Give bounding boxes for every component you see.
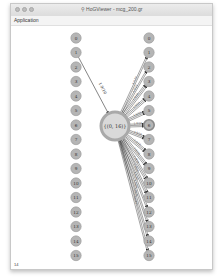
right-node-8[interactable]: 8: [144, 149, 154, 159]
right-node-1[interactable]: 1: [144, 47, 154, 57]
right-node-12[interactable]: 12: [144, 207, 154, 217]
left-node-6[interactable]: 6: [71, 120, 81, 130]
outgoing-edge[interactable]: [120, 139, 146, 193]
edge-label: 1.0/10: [133, 196, 138, 205]
node-label: 15: [146, 253, 152, 258]
node-label: 11: [146, 195, 152, 200]
edges: 1.9/101.0/101.0/101.0/101.0/101.0/101.0/…: [78, 57, 148, 251]
node-label: 12: [73, 210, 79, 215]
node-label: 7: [75, 137, 78, 142]
menubar: Application: [11, 16, 212, 26]
left-node-9[interactable]: 9: [71, 163, 81, 173]
right-node-10[interactable]: 10: [144, 178, 154, 188]
status-text: 14: [14, 262, 18, 267]
node-label: 13: [146, 224, 152, 229]
right-node-7[interactable]: 7: [144, 134, 154, 144]
left-node-12[interactable]: 12: [71, 207, 81, 217]
node-label: 9: [75, 166, 78, 171]
node-label: 4: [75, 94, 78, 99]
right-node-5[interactable]: 5: [144, 105, 154, 115]
right-node-13[interactable]: 13: [144, 221, 154, 231]
node-label: 12: [146, 210, 152, 215]
node-label: 1: [75, 50, 78, 55]
right-node-9[interactable]: 9: [144, 163, 154, 173]
edge-label: 1.0/10: [133, 131, 142, 137]
edge-label: 1.0/10: [134, 122, 143, 125]
left-node-0[interactable]: 0: [71, 33, 81, 43]
incoming-edge-label: 1.9/10: [98, 81, 109, 95]
left-node-2[interactable]: 2: [71, 62, 81, 72]
right-node-11[interactable]: 11: [144, 192, 154, 202]
window-title: ⚲ HoGViewer - mcg_200.gr: [11, 5, 212, 14]
node-label: 0: [148, 36, 151, 41]
node-label: 9: [148, 166, 151, 171]
node-label: 11: [73, 195, 79, 200]
app-window: ⚲ HoGViewer - mcg_200.gr Application 1.9…: [10, 3, 213, 270]
node-label: 15: [73, 253, 79, 258]
right-node-14[interactable]: 14: [144, 236, 154, 246]
menu-application[interactable]: Application: [14, 17, 38, 24]
node-label: 0: [75, 36, 78, 41]
left-node-15[interactable]: 15: [71, 250, 81, 260]
node-label: 14: [73, 239, 79, 244]
node-label: 2: [75, 65, 78, 70]
node-label: 1: [148, 50, 151, 55]
node-label: 5: [148, 108, 151, 113]
left-node-8[interactable]: 8: [71, 149, 81, 159]
node-label: 8: [75, 152, 78, 157]
right-node-2[interactable]: 2: [144, 62, 154, 72]
right-node-0[interactable]: 0: [144, 33, 154, 43]
left-node-3[interactable]: 3: [71, 76, 81, 86]
graph-svg[interactable]: 1.9/101.0/101.0/101.0/101.0/101.0/101.0/…: [11, 26, 212, 266]
node-label: 8: [148, 152, 151, 157]
right-node-6[interactable]: 6: [144, 120, 154, 130]
node-label: 2: [148, 65, 151, 70]
left-node-4[interactable]: 4: [71, 91, 81, 101]
outgoing-edge[interactable]: [118, 140, 147, 251]
node-label: 14: [146, 239, 152, 244]
node-label: 6: [75, 123, 78, 128]
left-node-14[interactable]: 14: [71, 236, 81, 246]
center-node-label: {(0, 16)}: [104, 123, 127, 129]
graph-canvas[interactable]: 1.9/101.0/101.0/101.0/101.0/101.0/101.0/…: [11, 26, 212, 266]
node-label: 10: [146, 181, 152, 186]
right-node-4[interactable]: 4: [144, 91, 154, 101]
left-node-11[interactable]: 11: [71, 192, 81, 202]
edge-label: 1.0/10: [133, 111, 142, 117]
node-label: 5: [75, 108, 78, 113]
left-node-1[interactable]: 1: [71, 47, 81, 57]
right-node-3[interactable]: 3: [144, 76, 154, 86]
right-node-15[interactable]: 15: [144, 250, 154, 260]
node-label: 4: [148, 94, 151, 99]
left-node-7[interactable]: 7: [71, 134, 81, 144]
node-label: 6: [148, 123, 151, 128]
center-node[interactable]: {(0, 16)}: [101, 112, 129, 140]
node-label: 13: [73, 224, 79, 229]
left-node-10[interactable]: 10: [71, 178, 81, 188]
node-label: 7: [148, 137, 151, 142]
edge-label: 1.0/10: [133, 139, 142, 147]
node-label: 3: [148, 79, 151, 84]
edge-label: 1.0/10: [132, 76, 138, 85]
left-node-13[interactable]: 13: [71, 221, 81, 231]
edge-label: 1.0/10: [132, 92, 140, 101]
node-label: 10: [73, 181, 79, 186]
node-label: 3: [75, 79, 78, 84]
left-node-5[interactable]: 5: [71, 105, 81, 115]
